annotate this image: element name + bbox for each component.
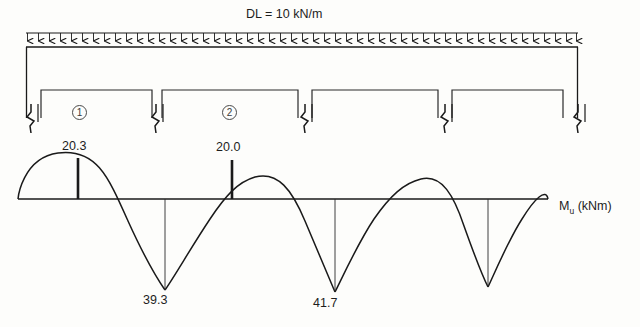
bending-moment-figure: [0, 0, 640, 327]
span-1-dimension: [41, 90, 152, 118]
bmd-curve-span-4: [488, 194, 548, 287]
span-3-dimension: [312, 90, 438, 118]
support-break-2: [152, 104, 159, 133]
beam-member: [26, 47, 578, 118]
moment-value-sagging-span-1: 20.3: [62, 140, 86, 153]
udl-group: [26, 33, 578, 41]
moment-axis-symbol: M: [559, 199, 569, 213]
supports-group: [27, 104, 585, 133]
moment-axis-unit: (kNm): [574, 199, 612, 213]
support-break-4: [441, 104, 448, 133]
support-break-5: [574, 104, 581, 133]
span-dimension-lines: [41, 90, 563, 118]
span-marker-1: 1: [72, 105, 87, 120]
bmd-curve-span-1: [18, 152, 165, 290]
support-break-3: [301, 104, 308, 133]
span-4-dimension: [452, 90, 563, 118]
bmd-curve-span-2: [165, 176, 335, 292]
bending-moment-diagram: [18, 152, 548, 292]
support-break-1: [27, 104, 34, 133]
moment-value-hogging-support-2: 39.3: [143, 294, 167, 307]
moment-value-hogging-support-3: 41.7: [313, 297, 337, 310]
udl-magnitude-label: DL = 10 kN/m: [246, 8, 322, 21]
span-marker-2: 2: [222, 105, 237, 120]
udl-arrows: [28, 33, 577, 41]
moment-axis-label: Mu (kNm): [559, 200, 612, 215]
moment-value-sagging-span-2: 20.0: [216, 141, 240, 154]
bmd-curve-span-3: [335, 178, 488, 292]
